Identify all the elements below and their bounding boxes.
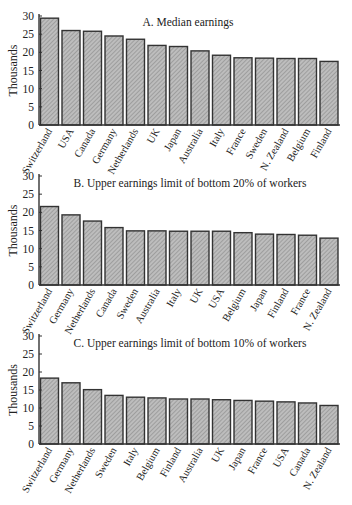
bar-germany: [105, 36, 123, 125]
y-tick-label: 10: [23, 243, 35, 255]
x-tick-label: Italy: [207, 126, 227, 149]
bar-japan: [256, 234, 274, 285]
bar-sweden: [256, 58, 274, 125]
x-tick-label: USA: [56, 126, 76, 150]
chart-panel-a-median-earnings: 051015202530ThousandsA. Median earningsS…: [6, 10, 340, 176]
bar-italy: [170, 231, 188, 285]
bar-canada: [299, 403, 317, 444]
bar-netherlands: [84, 390, 102, 444]
bar-n-zealand: [320, 405, 338, 444]
y-tick-label: 10: [23, 83, 35, 95]
bar-italy: [127, 397, 145, 444]
bar-finland: [170, 399, 188, 444]
bar-france: [234, 58, 252, 125]
y-tick-label: 25: [23, 28, 35, 40]
x-tick-label: Finland: [308, 126, 334, 160]
bar-n-zealand: [320, 238, 338, 285]
bar-finland: [277, 234, 295, 285]
y-axis-label: Thousands: [6, 364, 20, 416]
bar-canada: [84, 31, 102, 125]
bar-finland: [320, 61, 338, 125]
x-tick-label: Switzerland: [20, 126, 55, 176]
x-tick-label: Italy: [164, 286, 184, 309]
y-tick-label: 20: [23, 46, 35, 58]
chart-title: A. Median earnings: [142, 16, 234, 29]
bar-netherlands: [84, 221, 102, 285]
chart-title: B. Upper earnings limit of bottom 20% of…: [74, 177, 307, 190]
x-tick-label: Finland: [265, 286, 291, 320]
bar-belgium: [234, 233, 252, 285]
bar-canada: [105, 228, 123, 285]
y-tick-label: 20: [23, 366, 35, 378]
y-tick-label: 0: [28, 279, 34, 291]
bar-france: [299, 235, 317, 285]
bar-usa: [213, 231, 231, 285]
bar-usa: [277, 402, 295, 444]
x-tick-label: USA: [206, 286, 226, 310]
earnings-figure: 051015202530ThousandsA. Median earningsS…: [0, 0, 352, 505]
x-tick-label: Japan: [162, 126, 184, 153]
y-tick-label: 5: [28, 420, 34, 432]
bar-australia: [148, 231, 166, 285]
x-tick-label: Switzerland: [20, 445, 55, 495]
bar-uk: [148, 45, 166, 125]
bar-germany: [62, 383, 80, 444]
bar-switzerland: [41, 378, 59, 444]
y-tick-label: 15: [23, 225, 35, 237]
y-tick-label: 25: [23, 188, 35, 200]
y-tick-label: 20: [23, 206, 35, 218]
bar-belgium: [148, 398, 166, 444]
x-tick-label: Japan: [248, 286, 270, 313]
x-tick-label: Italy: [121, 445, 141, 468]
y-tick-label: 10: [23, 402, 35, 414]
y-tick-label: 30: [23, 170, 35, 182]
chart-panel-b-bottom-20-percent: 051015202530ThousandsB. Upper earnings l…: [6, 170, 340, 336]
y-axis-label: Thousands: [6, 44, 20, 96]
x-tick-label: Japan: [226, 445, 248, 472]
bar-netherlands: [127, 39, 145, 125]
x-tick-label: Switzerland: [20, 286, 55, 336]
x-tick-label: USA: [271, 445, 291, 469]
bar-uk: [213, 400, 231, 444]
bar-australia: [191, 51, 209, 125]
bar-sweden: [105, 395, 123, 444]
chart-panel-c-bottom-10-percent: 051015202530ThousandsC. Upper earnings l…: [6, 330, 340, 495]
bar-japan: [170, 47, 188, 125]
bar-belgium: [299, 59, 317, 125]
y-tick-label: 0: [28, 438, 34, 450]
y-tick-label: 25: [23, 348, 35, 360]
bar-usa: [62, 31, 80, 125]
bar-australia: [191, 399, 209, 444]
chart-title: C. Upper earnings limit of bottom 10% of…: [74, 337, 307, 350]
y-tick-label: 15: [23, 384, 35, 396]
bar-france: [256, 401, 274, 444]
bar-n-zealand: [277, 59, 295, 125]
bar-switzerland: [41, 18, 59, 125]
bar-sweden: [127, 231, 145, 285]
y-tick-label: 30: [23, 10, 35, 22]
y-tick-label: 0: [28, 119, 34, 131]
y-axis-label: Thousands: [6, 204, 20, 256]
y-tick-label: 30: [23, 330, 35, 342]
y-tick-label: 5: [28, 101, 34, 113]
bar-germany: [62, 215, 80, 285]
x-tick-label: UK: [209, 445, 226, 464]
x-tick-label: France: [245, 445, 269, 476]
bar-uk: [191, 231, 209, 285]
bar-charts-svg: 051015202530ThousandsA. Median earningsS…: [0, 0, 352, 505]
x-tick-label: UK: [188, 286, 205, 305]
y-tick-label: 15: [23, 65, 35, 77]
x-tick-label: Sweden: [93, 445, 120, 480]
bar-italy: [213, 55, 231, 125]
bar-switzerland: [41, 207, 59, 285]
y-tick-label: 5: [28, 261, 34, 273]
x-tick-label: UK: [145, 126, 162, 145]
bar-japan: [234, 400, 252, 444]
